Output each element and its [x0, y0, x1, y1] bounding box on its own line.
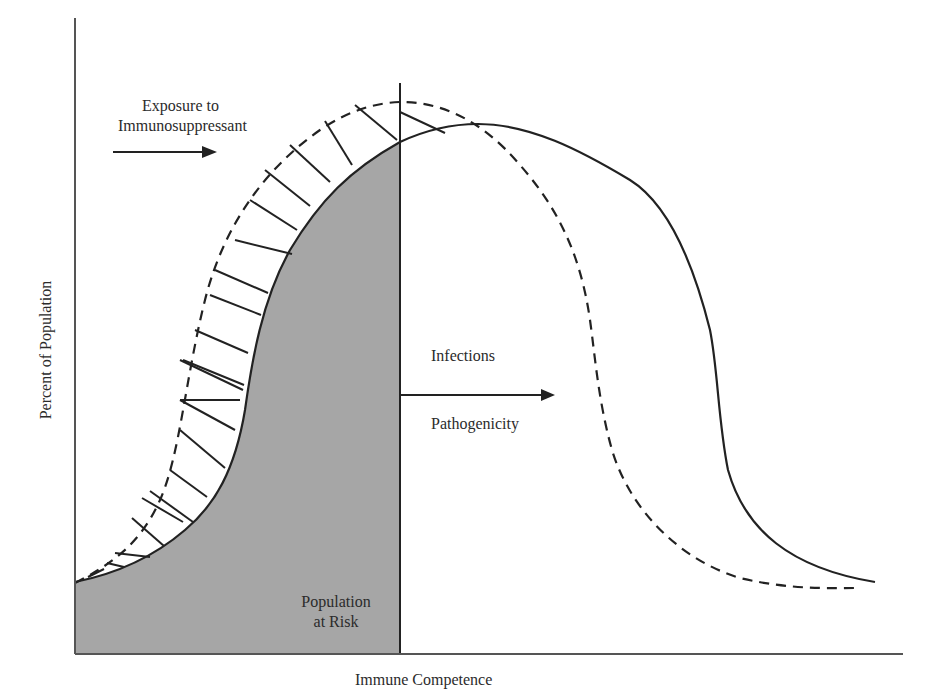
population-label-line2: at Risk [280, 612, 392, 632]
exposure-arrow [113, 146, 217, 158]
exposure-label-line1: Exposure to [118, 96, 243, 116]
exposure-label: Exposure to Immunosuppressant [118, 96, 243, 136]
pathogenicity-label: Pathogenicity [431, 414, 519, 434]
infection-threshold-arrow [400, 389, 555, 401]
population-label-line1: Population [280, 592, 392, 612]
y-axis-label: Percent of Population [37, 281, 55, 420]
population-at-risk-label: Population at Risk [280, 592, 392, 632]
x-axis-label: Immune Competence [355, 670, 492, 690]
exposure-label-line2: Immunosuppressant [118, 116, 243, 136]
infections-label: Infections [431, 346, 495, 366]
infections-dose-label: Infections [431, 346, 495, 366]
